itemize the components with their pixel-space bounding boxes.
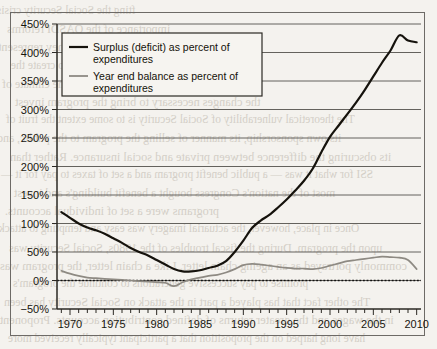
x-axis-ticks xyxy=(61,309,416,315)
y-tick-label: 450% xyxy=(21,18,49,30)
line-chart: 450%400%350%300%250%200%150%100%50%0%−50… xyxy=(0,0,437,349)
y-tick-label: 200% xyxy=(21,161,49,173)
x-tick-label: 1980 xyxy=(144,318,168,330)
x-tick-label: 1985 xyxy=(188,318,212,330)
chart-canvas: 450%400%350%300%250%200%150%100%50%0%−50… xyxy=(0,0,437,349)
legend-label-balance-line1: Year end balance as percent of xyxy=(93,70,238,82)
chart-legend: Surplus (deficit) as percent of expendit… xyxy=(62,33,262,96)
x-tick-label: 2005 xyxy=(361,318,385,330)
x-tick-label: 1970 xyxy=(58,318,82,330)
y-axis-tick-labels: 450%400%350%300%250%200%150%100%50%0%−50… xyxy=(21,18,50,315)
x-axis-tick-labels: 197019751980198519901995200020052010 xyxy=(58,318,429,330)
y-tick-label: 150% xyxy=(21,189,49,201)
y-tick-label: 0% xyxy=(33,275,49,287)
legend-label-balance-line2: expenditures xyxy=(93,82,153,94)
x-tick-label: 1995 xyxy=(274,318,298,330)
x-tick-label: 1990 xyxy=(231,318,255,330)
x-tick-label: 2000 xyxy=(318,318,342,330)
y-tick-label: −50% xyxy=(21,303,50,315)
series-year-end-balance xyxy=(61,257,416,287)
y-tick-label: 400% xyxy=(21,47,49,59)
y-tick-label: 100% xyxy=(21,218,49,230)
y-tick-label: 250% xyxy=(21,132,49,144)
x-tick-label: 2010 xyxy=(404,318,428,330)
legend-label-surplus-line1: Surplus (deficit) as percent of xyxy=(93,41,230,53)
y-tick-label: 300% xyxy=(21,104,49,116)
x-tick-label: 1975 xyxy=(101,318,125,330)
legend-label-surplus-line2: expenditures xyxy=(93,53,153,65)
y-tick-label: 350% xyxy=(21,75,49,87)
y-tick-label: 50% xyxy=(27,246,49,258)
